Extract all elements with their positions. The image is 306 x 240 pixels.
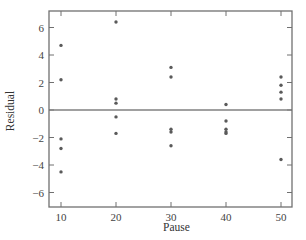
data-point bbox=[279, 158, 282, 161]
y-tick-label: 4 bbox=[39, 49, 45, 61]
data-point bbox=[224, 103, 227, 106]
data-point bbox=[224, 132, 227, 135]
data-point bbox=[169, 75, 172, 78]
y-tick-label: −6 bbox=[32, 187, 44, 199]
y-tick-label: 0 bbox=[39, 104, 45, 116]
data-point bbox=[59, 170, 62, 173]
data-points bbox=[59, 20, 282, 173]
x-tick-label: 50 bbox=[276, 211, 288, 223]
data-point bbox=[224, 119, 227, 122]
y-axis-label: Residual bbox=[4, 91, 16, 131]
data-point bbox=[279, 75, 282, 78]
data-point bbox=[114, 97, 117, 100]
data-point bbox=[59, 147, 62, 150]
y-tick-label: −2 bbox=[32, 132, 44, 144]
data-point bbox=[279, 90, 282, 93]
data-point bbox=[114, 132, 117, 135]
x-tick-label: 40 bbox=[221, 211, 233, 223]
data-point bbox=[279, 84, 282, 87]
data-point bbox=[279, 97, 282, 100]
x-axis-label: Pause bbox=[163, 221, 190, 233]
residual-plot: 1020304050 −6−4−20246 Pause Residual bbox=[0, 0, 306, 240]
y-tick-label: −4 bbox=[32, 159, 44, 171]
x-tick-label: 10 bbox=[56, 211, 68, 223]
data-point bbox=[169, 144, 172, 147]
data-point bbox=[169, 130, 172, 133]
y-tick-label: 6 bbox=[39, 22, 45, 34]
x-axis-ticks: 1020304050 bbox=[56, 11, 288, 223]
data-point bbox=[59, 44, 62, 47]
data-point bbox=[114, 20, 117, 23]
data-point bbox=[114, 115, 117, 118]
data-point bbox=[59, 78, 62, 81]
plot-frame bbox=[49, 11, 292, 207]
data-point bbox=[169, 66, 172, 69]
y-tick-label: 2 bbox=[39, 77, 45, 89]
data-point bbox=[114, 101, 117, 104]
data-point bbox=[59, 137, 62, 140]
x-tick-label: 20 bbox=[111, 211, 123, 223]
